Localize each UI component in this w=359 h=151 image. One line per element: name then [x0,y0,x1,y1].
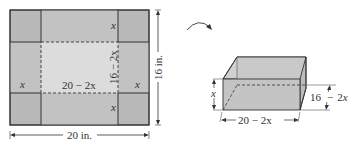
open-box: x 20 − 2x 16−2x [210,57,348,126]
label-inner-height: 16 − 2x [107,50,119,84]
label-x-right: x [134,78,140,90]
label-sheet-height: 16 in. [152,55,164,80]
label-box-depth: 16−2x [310,91,348,103]
label-sheet-width: 20 in. [67,129,92,141]
curved-arrow-icon [187,23,212,30]
label-box-length: 20 − 2x [238,114,272,126]
flat-sheet: x x x x 20 − 2x 16 − 2x 16 in. 20 in. [10,10,164,141]
flap-right [118,42,149,93]
box-front [223,79,300,110]
label-box-height: x [210,87,216,99]
flap-top [41,10,118,42]
diagram-canvas: x x x x 20 − 2x 16 − 2x 16 in. 20 in. [0,0,359,151]
label-x-left: x [19,78,25,90]
label-x-top: x [110,19,116,31]
label-inner-width: 20 − 2x [62,79,96,91]
flap-left [10,42,41,93]
label-x-bottom: x [110,101,116,113]
flap-bottom [41,93,118,125]
